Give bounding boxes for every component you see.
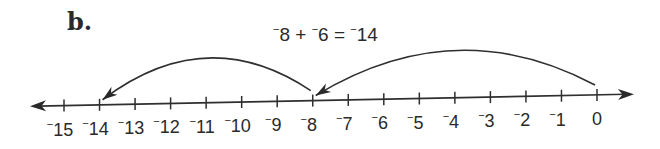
tick-number: 9 xyxy=(271,115,281,135)
part-label: b. xyxy=(67,7,92,36)
tick-number: 6 xyxy=(378,113,388,133)
tick-label: −2 xyxy=(514,108,530,130)
axis-line xyxy=(38,94,626,106)
tick-number: 7 xyxy=(342,114,352,134)
tick-number: 10 xyxy=(231,116,251,136)
tick-number: 11 xyxy=(196,117,215,137)
tick-label: 0 xyxy=(592,109,602,129)
tick-label: −4 xyxy=(443,110,459,132)
tick-label: −7 xyxy=(336,112,352,134)
tick-label: −13 xyxy=(118,116,144,138)
tick-label: −11 xyxy=(190,115,215,137)
equation-part: 6 = xyxy=(318,24,350,45)
jump-arrowhead-icon xyxy=(316,83,331,95)
equation-part: 14 xyxy=(357,24,379,45)
tick-number: 15 xyxy=(53,120,73,140)
tick-label: −5 xyxy=(407,111,423,133)
number-line-diagram: b. −8 + −6 = −14 −15−14−13−12−11−10−9−8−… xyxy=(0,0,660,149)
tick-number: 5 xyxy=(414,113,424,133)
tick-label: −1 xyxy=(549,108,565,130)
tick-label: −14 xyxy=(82,117,108,139)
tick-number: 13 xyxy=(124,118,144,138)
jump-arcs xyxy=(103,50,595,99)
tick-label: −10 xyxy=(224,114,250,136)
tick-number: 12 xyxy=(160,117,180,137)
tick-number: 8 xyxy=(307,115,317,135)
equation-part: 8 + xyxy=(279,24,311,45)
tick-label: −9 xyxy=(265,113,281,135)
tick-label: −12 xyxy=(153,115,179,137)
tick-number: 1 xyxy=(556,110,566,130)
tick-number: 14 xyxy=(89,119,109,139)
number-line-axis xyxy=(30,89,634,111)
tick-label: −8 xyxy=(301,113,317,135)
equation: −8 + −6 = −14 xyxy=(273,23,378,45)
jump-arrowhead-icon xyxy=(103,87,118,100)
tick-label: −15 xyxy=(47,118,73,140)
tick-number: 4 xyxy=(449,112,459,132)
number-line-labels: −15−14−13−12−11−10−9−8−7−6−5−4−3−2−10 xyxy=(47,108,602,140)
tick-label: −3 xyxy=(478,109,494,131)
tick-number: 2 xyxy=(520,110,530,130)
jump-arc xyxy=(316,50,595,95)
tick-label: −6 xyxy=(372,111,388,133)
jump-arc xyxy=(103,58,311,100)
tick-number: 3 xyxy=(485,111,495,131)
